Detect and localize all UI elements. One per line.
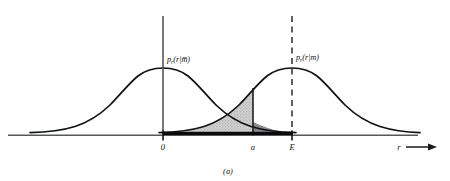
signal-density-curve [159,68,420,133]
signal-density-label: pr(r|m) [295,53,319,63]
figure-container: pr(r|m̅) pr(r|m) 0 a E r (a) [0,0,450,181]
svg-text:pr(r|m): pr(r|m) [295,53,319,63]
probability-density-figure: pr(r|m̅) pr(r|m) 0 a E r (a) [0,0,450,181]
axis-arrow-icon [406,144,437,151]
svg-text:pr(r|m̅): pr(r|m̅) [166,55,190,65]
axis-label-energy: E [288,142,295,152]
signal-label-arg: (r|m) [302,53,319,62]
noise-label-arg: (r|m̅) [173,55,190,64]
noise-density-label: pr(r|m̅) [166,55,190,65]
axis-label-threshold: a [251,142,255,152]
axis-label-origin: 0 [161,142,166,152]
figure-caption: (a) [223,167,233,176]
axis-variable-label: r [397,142,401,152]
